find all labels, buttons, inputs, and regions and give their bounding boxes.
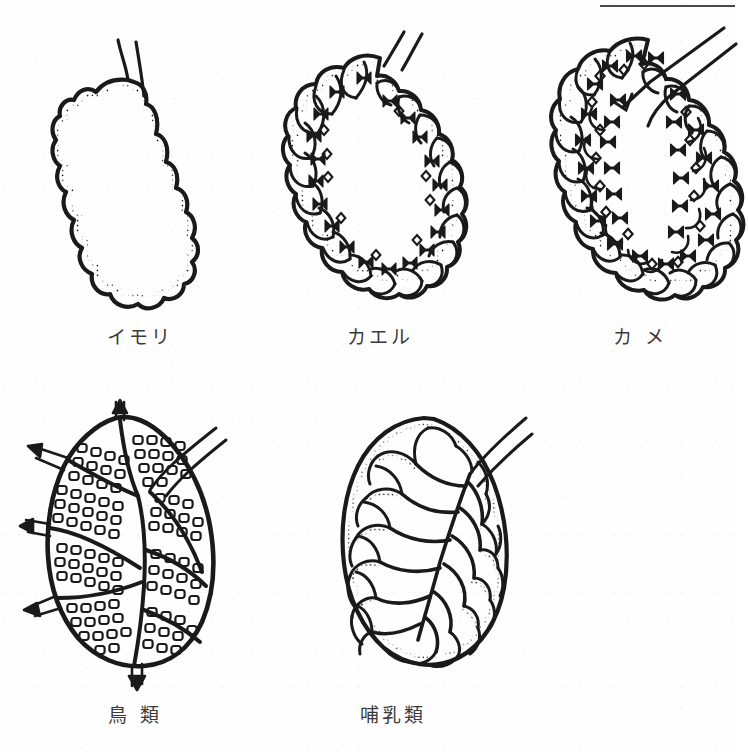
caption-newt: イモリ <box>60 322 220 349</box>
caption-turtle: カ メ <box>560 322 720 349</box>
capillary-field-mid-right <box>149 494 202 540</box>
turtle-bronchus <box>624 28 736 126</box>
frog-septa-diamonds <box>320 106 435 260</box>
newt-outer-wall <box>53 80 198 309</box>
panel-bird <box>20 400 240 690</box>
capillary-field-bottom-left <box>67 600 130 654</box>
panel-mammal <box>320 400 540 690</box>
newt-lung-wall <box>53 80 198 309</box>
top-right-rule <box>600 5 735 7</box>
panel-turtle <box>548 18 748 318</box>
newt-inner-lining <box>59 86 193 298</box>
caption-frog: カエル <box>295 322 465 349</box>
panel-newt <box>40 18 240 318</box>
frog-bronchus <box>384 32 422 70</box>
caption-mammal: 哺乳類 <box>305 700 480 727</box>
panel-frog <box>280 18 480 318</box>
caption-bird: 鳥 類 <box>50 700 220 727</box>
mammal-bronchial-tree <box>372 464 482 652</box>
